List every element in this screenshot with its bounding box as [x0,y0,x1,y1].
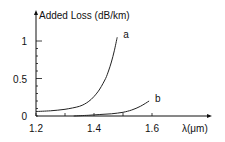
x-tick-label: 1.6 [145,123,159,134]
x-tick-label: 1.4 [87,123,101,134]
chart: 00.511.21.41.6 ab Added Loss (dB/km) λ(μ… [0,0,225,142]
y-tick-label: 1 [21,36,27,47]
y-axis-arrow [34,10,38,15]
x-axis-arrow [207,114,212,118]
series-label-a: a [123,29,129,40]
y-tick-label: 0.5 [13,74,27,85]
ticks: 00.511.21.41.6 [13,36,159,134]
series-line-a [36,37,117,111]
x-axis-label: λ(μm) [182,123,208,134]
series-label-b: b [155,93,161,104]
y-axis-label: Added Loss (dB/km) [39,10,130,21]
x-tick-label: 1.2 [29,123,43,134]
y-tick-label: 0 [21,111,27,122]
axes [34,10,212,118]
series-group: ab [36,29,161,116]
